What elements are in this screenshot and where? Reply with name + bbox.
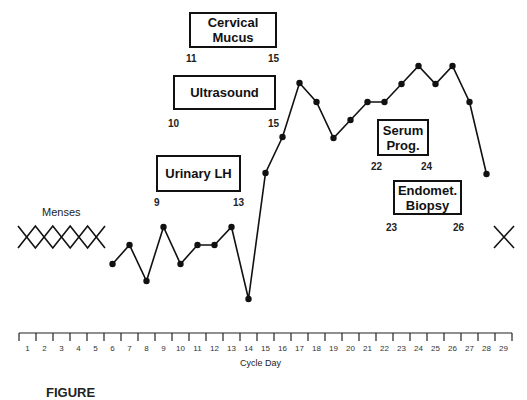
data-point bbox=[211, 242, 217, 248]
data-point bbox=[177, 261, 183, 267]
x-tick-label: 29 bbox=[495, 344, 512, 353]
endometrial-biopsy-line2: Biopsy bbox=[406, 198, 449, 213]
data-point bbox=[330, 135, 336, 141]
data-point bbox=[279, 134, 285, 140]
data-point bbox=[432, 81, 438, 87]
x-tick-label: 12 bbox=[206, 344, 223, 353]
ultrasound-end-day: 15 bbox=[268, 118, 279, 129]
endometrial-biopsy-box: Endomet. Biopsy bbox=[393, 180, 462, 215]
x-tick-label: 9 bbox=[155, 344, 172, 353]
x-tick-label: 17 bbox=[291, 344, 308, 353]
endometrial-biopsy-start-day: 23 bbox=[386, 222, 397, 233]
figure-caption-partial: FIGURE bbox=[46, 385, 95, 400]
x-tick-label: 26 bbox=[444, 344, 461, 353]
x-axis-ticks bbox=[19, 333, 512, 341]
data-point bbox=[228, 224, 234, 230]
endometrial-biopsy-line1: Endomet. bbox=[398, 183, 457, 198]
x-tick-label: 14 bbox=[240, 344, 257, 353]
x-axis-title: Cycle Day bbox=[240, 358, 281, 368]
cervical-mucus-end-day: 15 bbox=[268, 53, 279, 64]
data-point bbox=[262, 170, 268, 176]
x-tick-label: 27 bbox=[461, 344, 478, 353]
data-point bbox=[194, 242, 200, 248]
x-tick-label: 16 bbox=[274, 344, 291, 353]
serum-prog-line2: Prog. bbox=[386, 138, 419, 153]
data-point bbox=[245, 296, 251, 302]
x-tick-label: 20 bbox=[342, 344, 359, 353]
endometrial-biopsy-end-day: 26 bbox=[453, 222, 464, 233]
x-tick-label: 24 bbox=[410, 344, 427, 353]
serum-prog-end-day: 24 bbox=[421, 161, 432, 172]
urinary-lh-box: Urinary LH bbox=[156, 155, 241, 192]
serum-prog-start-day: 22 bbox=[371, 161, 382, 172]
x-tick-label: 15 bbox=[257, 344, 274, 353]
x-tick-label: 21 bbox=[359, 344, 376, 353]
cervical-mucus-line1: Cervical bbox=[208, 15, 259, 30]
data-point bbox=[126, 242, 132, 248]
ultrasound-label: Ultrasound bbox=[190, 85, 259, 100]
x-tick-label: 11 bbox=[189, 344, 206, 353]
x-tick-label: 19 bbox=[325, 344, 342, 353]
ultrasound-box: Ultrasound bbox=[173, 75, 276, 110]
cervical-mucus-start-day: 11 bbox=[186, 53, 197, 64]
menses-crosshatch bbox=[18, 226, 105, 248]
serum-prog-line1: Serum bbox=[383, 123, 423, 138]
ultrasound-start-day: 10 bbox=[168, 118, 179, 129]
x-tick-label: 3 bbox=[53, 344, 70, 353]
data-point bbox=[143, 278, 149, 284]
x-tick-label: 22 bbox=[376, 344, 393, 353]
x-tick-label: 4 bbox=[70, 344, 87, 353]
x-tick-label: 1 bbox=[19, 344, 36, 353]
cervical-mucus-box: Cervical Mucus bbox=[189, 12, 277, 48]
data-point bbox=[109, 261, 115, 267]
menses-label: Menses bbox=[42, 206, 81, 218]
urinary-lh-start-day: 9 bbox=[154, 197, 160, 208]
x-tick-label: 25 bbox=[427, 344, 444, 353]
data-point bbox=[466, 99, 472, 105]
data-point bbox=[347, 117, 353, 123]
x-tick-label: 8 bbox=[138, 344, 155, 353]
data-point bbox=[296, 80, 302, 86]
x-tick-label: 10 bbox=[172, 344, 189, 353]
urinary-lh-end-day: 13 bbox=[233, 197, 244, 208]
x-tick-label: 13 bbox=[223, 344, 240, 353]
data-point bbox=[449, 63, 455, 69]
data-point bbox=[160, 224, 166, 230]
x-tick-label: 28 bbox=[478, 344, 495, 353]
serum-prog-box: Serum Prog. bbox=[377, 119, 429, 156]
x-tick-label: 18 bbox=[308, 344, 325, 353]
data-point bbox=[415, 63, 421, 69]
x-tick-label: 6 bbox=[104, 344, 121, 353]
data-point bbox=[313, 99, 319, 105]
data-point bbox=[364, 99, 370, 105]
x-tick-label: 7 bbox=[121, 344, 138, 353]
cervical-mucus-line2: Mucus bbox=[212, 30, 253, 45]
x-tick-label: 23 bbox=[393, 344, 410, 353]
data-point bbox=[398, 81, 404, 87]
next-menses-x-icon bbox=[494, 226, 514, 248]
data-point bbox=[483, 171, 489, 177]
x-tick-label: 5 bbox=[87, 344, 104, 353]
data-point bbox=[381, 99, 387, 105]
urinary-lh-label: Urinary LH bbox=[165, 166, 231, 181]
x-tick-label: 2 bbox=[36, 344, 53, 353]
